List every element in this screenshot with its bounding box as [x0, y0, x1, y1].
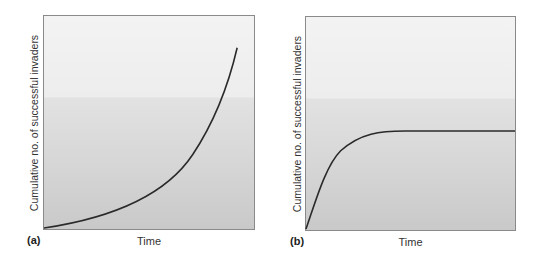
plot-area-b: [305, 16, 516, 231]
panel-tag-a: (a): [27, 234, 40, 246]
y-axis-label-a: Cumulative no. of successful invaders: [28, 33, 42, 213]
x-axis-label-a: Time: [43, 235, 255, 247]
x-axis-label-b: Time: [305, 236, 516, 248]
y-axis-label-b: Cumulative no. of successful invaders: [291, 34, 305, 214]
exponential-curve-a: [44, 16, 254, 229]
plot-area-a: [43, 15, 255, 230]
panel-a: Cumulative no. of successful invaders (a…: [0, 0, 269, 259]
panel-tag-b: (b): [290, 235, 304, 247]
saturating-curve-b: [306, 17, 515, 230]
panel-b: Cumulative no. of successful invaders (b…: [268, 0, 537, 259]
